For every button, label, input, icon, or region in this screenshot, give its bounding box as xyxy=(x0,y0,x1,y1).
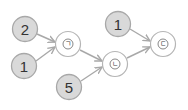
edge-giyeok-to-nieun xyxy=(80,50,102,61)
number-label: 5 xyxy=(65,79,73,96)
result-node-giyeok: ㄱ xyxy=(56,32,81,57)
jamo-label: ㄱ xyxy=(65,40,71,48)
edge-2-to-giyeok xyxy=(37,34,55,42)
number-label: 1 xyxy=(20,58,28,75)
result-node-digeut: ㄷ xyxy=(151,32,176,57)
edge-1b-to-digeut xyxy=(130,29,150,41)
number-node-2: 2 xyxy=(13,17,38,42)
number-node-1-top: 1 xyxy=(106,12,131,37)
addition-flow-diagram: 2 1 5 1 ㄱ ㄴ ㄷ xyxy=(0,0,188,110)
jamo-label: ㄴ xyxy=(112,60,118,68)
number-node-1-left: 1 xyxy=(12,54,37,79)
edge-nieun-to-digeut xyxy=(127,47,150,58)
result-node-nieun: ㄴ xyxy=(103,52,128,77)
jamo-label: ㄷ xyxy=(160,40,166,48)
edge-5-to-nieun xyxy=(81,67,102,81)
edge-1-to-giyeok xyxy=(36,47,55,61)
number-node-5: 5 xyxy=(57,75,82,100)
edges xyxy=(36,29,150,81)
number-label: 2 xyxy=(21,21,29,38)
number-label: 1 xyxy=(114,16,122,33)
